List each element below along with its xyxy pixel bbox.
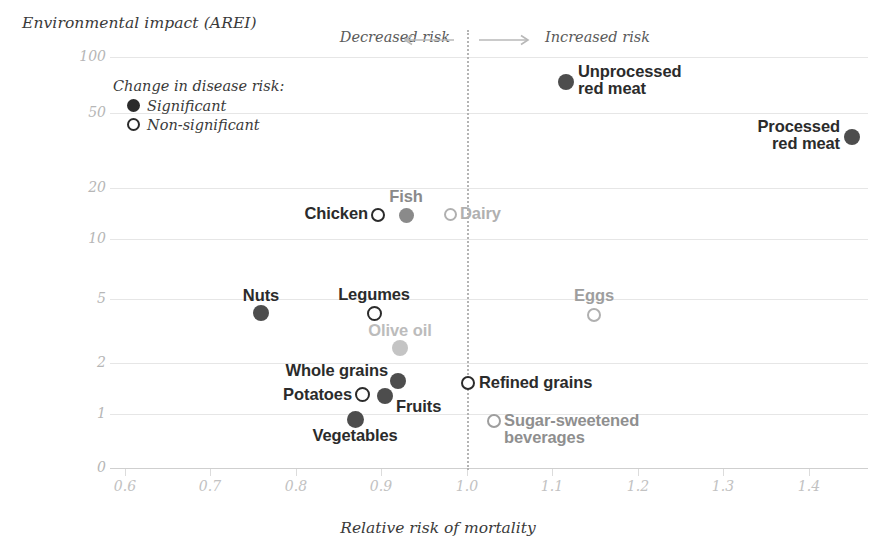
- x-tick-label: 0.9: [351, 478, 411, 494]
- data-point-marker[interactable]: [587, 308, 601, 322]
- x-tick-mark: [210, 469, 211, 476]
- data-point-label: Potatoes: [0, 386, 352, 403]
- data-point-marker[interactable]: [355, 387, 370, 402]
- right-arrow-icon: [477, 34, 533, 46]
- data-point-label: Processed red meat: [0, 118, 840, 152]
- data-point-marker[interactable]: [371, 208, 385, 222]
- y-tick-text: 10: [60, 230, 106, 246]
- x-tick-label: 0.7: [180, 478, 240, 494]
- x-tick-label: 0.6: [95, 478, 155, 494]
- data-point-label: Refined grains: [479, 374, 592, 391]
- data-point-marker[interactable]: [390, 373, 406, 389]
- data-point-label: Chicken: [0, 205, 368, 222]
- x-tick-mark: [809, 469, 810, 476]
- data-point-marker[interactable]: [392, 340, 408, 356]
- x-tick-mark: [723, 469, 724, 476]
- y-tick-text: 0: [60, 459, 106, 475]
- filled-circle-icon: [127, 99, 140, 112]
- data-point-label: Dairy: [460, 205, 501, 222]
- data-point-marker[interactable]: [253, 305, 269, 321]
- x-tick-label: 1.0: [437, 478, 497, 494]
- gridline: [110, 468, 868, 469]
- x-tick-label: 1.4: [779, 478, 839, 494]
- x-tick-mark: [638, 469, 639, 476]
- data-point-label: Fish: [266, 188, 546, 205]
- x-tick-mark: [552, 469, 553, 476]
- data-point-label: Sugar-sweetened beverages: [504, 412, 639, 446]
- x-tick-label: 1.3: [693, 478, 753, 494]
- gridline: [110, 239, 868, 240]
- x-tick-label: 1.1: [522, 478, 582, 494]
- legend-title: Change in disease risk:: [113, 78, 284, 94]
- data-point-marker[interactable]: [558, 74, 574, 90]
- data-point-label: Olive oil: [260, 322, 540, 339]
- data-point-marker[interactable]: [487, 414, 501, 428]
- data-point-label: Fruits: [396, 398, 441, 415]
- data-point-label: Unprocessed red meat: [578, 63, 681, 97]
- x-tick-mark: [125, 469, 126, 476]
- y-tick-text: 1: [60, 405, 106, 421]
- x-axis-title: Relative risk of mortality: [0, 519, 876, 537]
- x-tick-mark: [381, 469, 382, 476]
- y-tick-text: 5: [60, 290, 106, 306]
- data-point-marker[interactable]: [367, 306, 382, 321]
- x-tick-mark: [467, 469, 468, 476]
- data-point-marker[interactable]: [444, 208, 457, 221]
- data-point-label: Whole grains: [0, 362, 388, 379]
- data-point-marker[interactable]: [844, 129, 860, 145]
- y-tick-text: 20: [60, 179, 106, 195]
- gridline: [110, 57, 868, 58]
- x-tick-mark: [296, 469, 297, 476]
- y-tick-text: 100: [60, 48, 106, 64]
- data-point-marker[interactable]: [461, 376, 475, 390]
- data-point-label: Vegetables: [215, 427, 495, 444]
- x-tick-label: 1.2: [608, 478, 668, 494]
- data-point-marker[interactable]: [347, 411, 364, 428]
- reference-line-rr-1: [467, 30, 469, 470]
- data-point-label: Eggs: [454, 287, 734, 304]
- left-arrow-icon: [400, 34, 456, 46]
- x-tick-label: 0.8: [266, 478, 326, 494]
- y-axis-title: Environmental impact (AREI): [22, 14, 257, 32]
- increased-risk-label: Increased risk: [545, 29, 650, 45]
- data-point-marker[interactable]: [399, 208, 414, 223]
- legend-item-label: Significant: [147, 98, 226, 114]
- data-point-marker[interactable]: [377, 388, 393, 404]
- legend-item-filled[interactable]: Significant: [127, 96, 284, 115]
- scatter-chart: Environmental impact (AREI) 100502010521…: [0, 0, 876, 554]
